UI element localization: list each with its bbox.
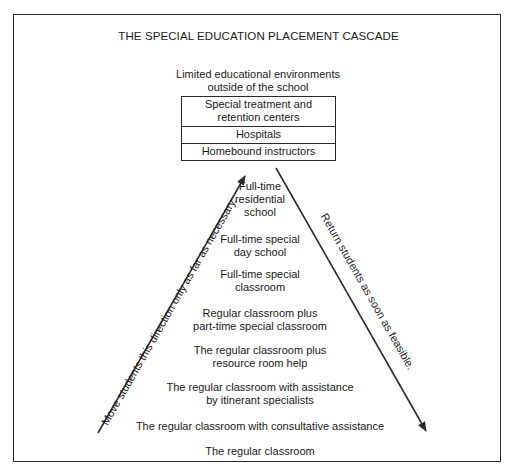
left-arrow-label: Move students this direction only as far… <box>99 195 239 427</box>
right-arrow-label: Return students as soon as feasible. <box>319 211 418 372</box>
return-down-arrow <box>276 168 426 431</box>
cascade-arrows: Move students this direction only as far… <box>0 0 517 476</box>
